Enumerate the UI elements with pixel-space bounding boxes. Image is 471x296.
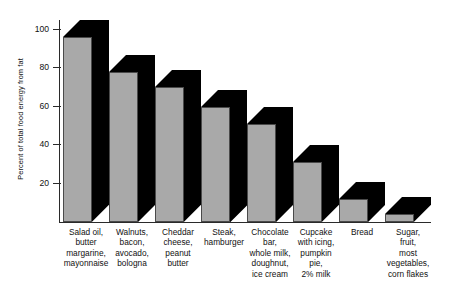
y-axis-tick-mark (53, 183, 61, 184)
y-axis-tick: 20 (3, 179, 61, 189)
y-axis-tick: 80 (3, 63, 61, 73)
bar (201, 90, 247, 222)
y-axis-tick-label: 100 (19, 24, 49, 34)
y-axis-tick-label: 60 (19, 101, 49, 111)
y-axis-tick-mark (53, 29, 61, 30)
y-axis-tick-label: 40 (19, 139, 49, 149)
bar (339, 182, 385, 222)
y-axis-tick-mark (53, 106, 61, 107)
y-axis-tick: 60 (3, 102, 61, 112)
y-axis-line (59, 20, 60, 223)
y-axis-tick-label: 20 (19, 178, 49, 188)
y-axis-tick: 100 (3, 25, 61, 35)
bar-front-face (63, 37, 92, 222)
y-axis-tick-label: 80 (19, 62, 49, 72)
bar (247, 107, 293, 222)
bar (293, 145, 339, 222)
y-axis-tick-mark (53, 144, 61, 145)
plot-area: 20406080100 (61, 20, 461, 222)
bar-front-face (339, 199, 368, 222)
y-axis-title: Percent of total food energy from fat (14, 14, 28, 224)
x-axis-category-label: Sugar, fruit, most vegetables, corn flak… (378, 227, 438, 279)
bar-front-face (109, 72, 138, 222)
x-axis-labels: Salad oil, butter margarine, mayonnaiseW… (61, 227, 461, 287)
y-axis-tick: 40 (3, 140, 61, 150)
bar-front-face (293, 162, 322, 222)
bar-chart: Percent of total food energy from fat 20… (0, 0, 471, 296)
y-axis-tick-mark (53, 67, 61, 68)
bar (109, 55, 155, 222)
x-axis-line (59, 222, 431, 223)
bar-front-face (155, 87, 184, 222)
bar-front-face (247, 124, 276, 222)
bar (385, 197, 431, 222)
bar (63, 20, 109, 222)
bar-front-face (201, 107, 230, 222)
bar (155, 70, 201, 222)
bar-front-face (385, 214, 414, 222)
